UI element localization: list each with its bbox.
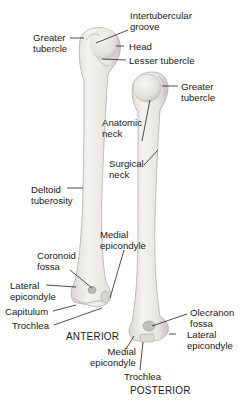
view-label-posterior: POSTERIOR xyxy=(130,385,191,397)
label-lateral-epicondyle-posterior: Lateral epicondyle xyxy=(187,329,233,351)
label-surgical-neck: Surgical neck xyxy=(109,158,144,180)
label-intertubercular-groove: Intertubercular groove xyxy=(130,10,192,32)
label-deltoid-tuberosity: Deltoid tuberosity xyxy=(31,184,73,206)
humerus-diagram: Greater tubercle Intertubercular groove … xyxy=(0,0,247,401)
label-capitulum: Capitulum xyxy=(5,306,48,317)
posterior-humerus xyxy=(129,72,168,342)
label-greater-tubercle-posterior: Greater tubercle xyxy=(181,81,215,103)
label-lesser-tubercle: Lesser tubercle xyxy=(129,55,195,66)
label-trochlea-posterior: Trochlea xyxy=(124,371,161,382)
label-medial-epicondyle-posterior: Medial epicondyle xyxy=(90,346,136,368)
label-coronoid-fossa: Coronoid fossa xyxy=(37,250,76,272)
label-medial-epicondyle-anterior: Medial epicondyle xyxy=(100,229,146,251)
label-trochlea-anterior: Trochlea xyxy=(12,320,49,331)
label-olecranon-fossa: Olecranon fossa xyxy=(190,307,234,329)
label-lateral-epicondyle-anterior: Lateral epicondyle xyxy=(10,280,56,302)
label-greater-tubercle-anterior: Greater tubercle xyxy=(33,32,67,54)
label-head: Head xyxy=(129,41,152,52)
view-label-anterior: ANTERIOR xyxy=(66,331,119,343)
label-anatomic-neck: Anatomic neck xyxy=(102,117,142,139)
